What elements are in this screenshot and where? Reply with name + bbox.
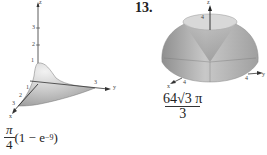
x-tick-4: 4 — [183, 79, 186, 85]
answer-denominator-right: 3 — [165, 106, 200, 121]
x-tick-2: 2 — [19, 92, 22, 98]
x-tick-3: 3 — [12, 100, 15, 106]
y-axis-label: y — [113, 84, 116, 90]
z-tick-2: 2 — [32, 41, 35, 47]
z-tick-4: 4 — [201, 14, 204, 20]
z-tick-1: 1 — [31, 57, 34, 63]
z-axis-label: z — [39, 0, 42, 5]
answer-denominator: 4 — [4, 137, 15, 152]
z-axis-label-right: z — [207, 0, 210, 5]
x-tick-1: 1 — [26, 84, 29, 90]
answer-close: ) — [53, 130, 57, 146]
right-answer: 64√3 π 3 — [162, 92, 203, 121]
answer-numerator-right: 64√3 π — [162, 92, 203, 106]
left-answer: π 4 (1 − e−9) — [4, 123, 58, 152]
x-axis-label: x — [9, 113, 12, 119]
z-tick-3: 3 — [32, 24, 35, 30]
x-axis-label-right: x — [167, 83, 170, 89]
answer-tail: (1 − e — [15, 130, 45, 146]
left-surface-plot — [0, 0, 130, 122]
answer-numerator: π — [5, 123, 14, 137]
answer-exponent: −9 — [45, 133, 54, 142]
y-tick-3: 3 — [94, 79, 97, 85]
y-tick-4: 4 — [245, 75, 248, 81]
y-axis-label-right: y — [262, 71, 265, 77]
